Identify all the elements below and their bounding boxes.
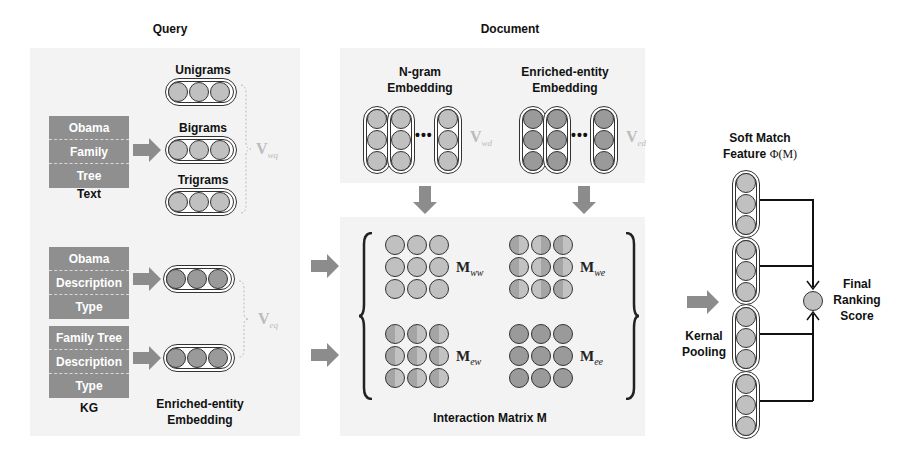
- final-ranking-score-label: Final Ranking Score: [827, 276, 887, 324]
- arrow-right-icon: [687, 290, 721, 314]
- trigrams-label: Trigrams: [165, 172, 241, 188]
- right-brace-icon: [624, 232, 640, 400]
- matrix-ee-grid: [509, 324, 573, 388]
- vector-wq-label: Vwq: [256, 140, 278, 160]
- soft-match-vector: [732, 371, 760, 439]
- matrix-we-label: Mwe: [580, 259, 605, 278]
- ngram-embedding-title: N-gram Embedding: [370, 64, 470, 96]
- kg-field: Description: [49, 350, 129, 374]
- doc-ngram-vector: [434, 106, 462, 174]
- matrix-we-grid: [509, 235, 573, 299]
- trigram-vector: [165, 188, 237, 216]
- document-header: Document: [460, 22, 560, 36]
- soft-match-vector: [732, 170, 760, 238]
- text-term: Obama: [49, 116, 129, 140]
- doc-entity-embedding-title: Enriched-entity Embedding: [505, 64, 625, 96]
- matrix-ww-grid: [385, 235, 449, 299]
- unigrams-label: Unigrams: [165, 62, 241, 78]
- final-score-node: [803, 291, 823, 311]
- unigram-vector: [165, 78, 237, 106]
- soft-match-vector: [732, 237, 760, 305]
- kg-caption: KG: [49, 400, 129, 416]
- ellipsis: •••: [415, 127, 433, 143]
- connector-line: [760, 400, 813, 402]
- kg-entity2-stack: Family Tree Description Type: [49, 326, 129, 398]
- arrow-right-icon: [133, 267, 163, 291]
- text-caption: Text: [49, 186, 129, 202]
- matrix-ww-label: Mww: [456, 259, 484, 278]
- vector-ed-label: Ved: [626, 128, 646, 148]
- kernel-pooling-label: Kernal Pooling: [678, 328, 730, 360]
- doc-ngram-vector: [387, 106, 415, 174]
- text-term: Tree: [49, 164, 129, 188]
- entity2-vector: [163, 344, 235, 372]
- kg-field: Obama: [49, 247, 129, 271]
- doc-entity-vector: [543, 106, 571, 174]
- arrowhead-up-icon: [806, 311, 820, 321]
- connector-line: [760, 265, 813, 267]
- soft-match-vector: [732, 304, 760, 372]
- kg-entity1-stack: Obama Description Type: [49, 247, 129, 319]
- arrow-right-icon: [311, 343, 341, 367]
- bigrams-label: Bigrams: [165, 120, 241, 136]
- connector-line: [760, 199, 813, 201]
- query-entity-embedding-caption: Enriched-entity Embedding: [140, 396, 260, 428]
- matrix-ew-grid: [385, 324, 449, 388]
- text-input-stack: Obama Family Tree: [49, 116, 129, 188]
- matrix-ee-label: Mee: [580, 348, 603, 367]
- bigram-vector: [165, 136, 237, 164]
- kg-field: Type: [49, 295, 129, 319]
- entity1-vector: [163, 265, 235, 293]
- arrow-right-icon: [133, 346, 163, 370]
- query-header: Query: [130, 22, 210, 36]
- arrow-down-icon: [413, 186, 437, 216]
- soft-match-title: Soft Match Feature Φ(M): [705, 130, 815, 162]
- brace-icon: [238, 280, 250, 358]
- arrow-right-icon: [311, 254, 341, 278]
- brace-icon: [240, 84, 252, 214]
- arrowhead-down-icon: [806, 280, 820, 290]
- kg-field: Family Tree: [49, 326, 129, 350]
- left-brace-icon: [358, 232, 374, 400]
- arrow-right-icon: [133, 138, 163, 162]
- kg-field: Description: [49, 271, 129, 295]
- doc-entity-vector: [590, 106, 618, 174]
- interaction-matrix-caption: Interaction Matrix M: [420, 410, 560, 426]
- vector-eq-label: Veq: [258, 310, 278, 330]
- matrix-ew-label: Mew: [456, 348, 481, 367]
- vector-wd-label: Vwd: [470, 128, 492, 148]
- ellipsis: •••: [571, 127, 589, 143]
- text-term: Family: [49, 140, 129, 164]
- kg-field: Type: [49, 374, 129, 398]
- arrow-down-icon: [572, 186, 596, 216]
- connector-line: [812, 314, 814, 401]
- connector-line: [812, 199, 814, 287]
- connector-line: [760, 333, 813, 335]
